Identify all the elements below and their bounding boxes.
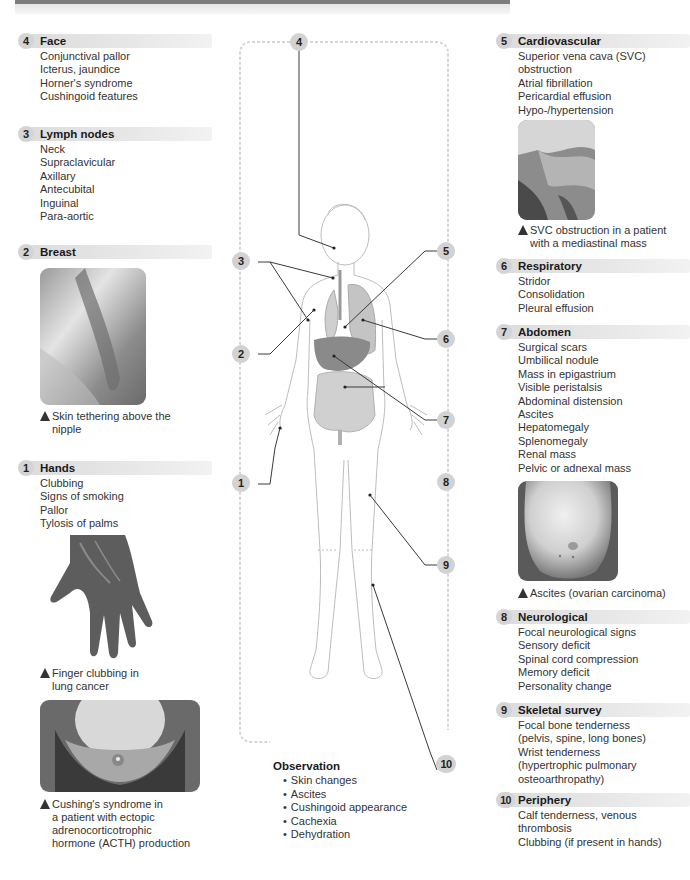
list-item: Pallor xyxy=(40,504,228,517)
section-number: 2 xyxy=(18,244,34,260)
section-hands: 1 Hands Clubbing Signs of smoking Pallor… xyxy=(18,460,228,850)
list-item: Dehydration xyxy=(283,828,473,842)
list-item: Focal neurological signs xyxy=(518,626,690,639)
section-periphery: 10 Periphery Calf tenderness, venous thr… xyxy=(496,792,690,849)
list-item: Superior vena cava (SVC) xyxy=(518,50,690,63)
list-item: Abdominal distension xyxy=(518,395,690,408)
section-title: Skeletal survey xyxy=(518,704,602,716)
list-item: Personality change xyxy=(518,680,690,693)
triangle-icon xyxy=(40,668,50,678)
ascites-photo xyxy=(518,481,618,581)
callout-lymph-nodes: 3 xyxy=(232,252,250,270)
list-item: Icterus, jaundice xyxy=(40,63,228,76)
section-number: 9 xyxy=(496,702,512,718)
list-item: Wrist tenderness xyxy=(518,746,690,759)
section-number: 5 xyxy=(496,33,512,49)
section-number: 8 xyxy=(496,609,512,625)
svc-photo xyxy=(518,120,595,220)
svc-caption: SVC obstruction in a patient with a medi… xyxy=(518,224,690,250)
callout-neurological: 8 xyxy=(437,473,455,491)
hands-caption: Finger clubbing in lung cancer xyxy=(40,667,228,693)
list-item: Sensory deficit xyxy=(518,639,690,652)
cushing-photo xyxy=(40,700,200,792)
section-title: Cardiovascular xyxy=(518,35,601,47)
cushing-caption: Cushing's syndrome in a patient with ect… xyxy=(40,798,228,850)
list-item: Neck xyxy=(40,143,228,156)
list-item: Pleural effusion xyxy=(518,302,690,315)
list-item: Focal bone tenderness xyxy=(518,719,690,732)
section-title: Hands xyxy=(40,462,75,474)
list-item: Horner's syndrome xyxy=(40,77,228,90)
list-item: Signs of smoking xyxy=(40,490,228,503)
triangle-icon xyxy=(40,799,50,809)
list-item: (pelvis, spine, long bones) xyxy=(518,732,690,745)
section-face: 4 Face Conjunctival pallor Icterus, jaun… xyxy=(18,33,228,104)
list-item: Ascites xyxy=(283,788,473,802)
list-item: Supraclavicular xyxy=(40,156,228,169)
list-item: Clubbing xyxy=(40,477,228,490)
section-number: 7 xyxy=(496,324,512,340)
list-item: Antecubital xyxy=(40,183,228,196)
callout-cardiovascular: 5 xyxy=(437,242,455,260)
list-item: Atrial fibrillation xyxy=(518,77,690,90)
list-item: Skin changes xyxy=(283,774,473,788)
list-item: Tylosis of palms xyxy=(40,517,228,530)
list-item: Ascites xyxy=(518,408,690,421)
callout-hands: 1 xyxy=(232,474,250,492)
section-title: Neurological xyxy=(518,611,588,623)
list-item: Memory deficit xyxy=(518,666,690,679)
observation-title: Observation xyxy=(273,760,473,772)
list-item: Para-aortic xyxy=(40,210,228,223)
section-cardiovascular: 5 Cardiovascular Superior vena cava (SVC… xyxy=(496,33,690,250)
list-item: obstruction xyxy=(518,63,690,76)
list-item: Surgical scars xyxy=(518,341,690,354)
section-number: 4 xyxy=(18,33,34,49)
section-skeletal-survey: 9 Skeletal survey Focal bone tenderness … xyxy=(496,702,690,786)
triangle-icon xyxy=(518,588,528,598)
list-item: Clubbing (if present in hands) xyxy=(518,836,690,849)
section-number: 6 xyxy=(496,258,512,274)
section-abdomen: 7 Abdomen Surgical scars Umbilical nodul… xyxy=(496,324,690,600)
body-diagram: 4 3 2 1 5 6 7 8 9 10 xyxy=(230,30,470,770)
list-item: Splenomegaly xyxy=(518,435,690,448)
section-title: Lymph nodes xyxy=(40,128,114,140)
list-item: Inguinal xyxy=(40,197,228,210)
list-item: Pelvic or adnexal mass xyxy=(518,462,690,475)
section-lymph-nodes: 3 Lymph nodes Neck Supraclavicular Axill… xyxy=(18,126,228,223)
list-item: Hypo-/hypertension xyxy=(518,104,690,117)
list-item: Mass in epigastrium xyxy=(518,368,690,381)
section-neurological: 8 Neurological Focal neurological signs … xyxy=(496,609,690,693)
section-number: 3 xyxy=(18,126,34,142)
list-item: Cushingoid appearance xyxy=(283,801,473,815)
section-breast: 2 Breast Skin tethering above the nipple xyxy=(18,244,228,436)
list-item: Umbilical nodule xyxy=(518,354,690,367)
list-item: Axillary xyxy=(40,170,228,183)
list-item: Cushingoid features xyxy=(40,90,228,103)
section-number: 10 xyxy=(496,792,515,808)
list-item: Spinal cord compression xyxy=(518,653,690,666)
list-item: (hypertrophic pulmonary xyxy=(518,759,690,772)
callout-respiratory: 6 xyxy=(437,330,455,348)
breast-caption: Skin tethering above the nipple xyxy=(40,410,228,436)
list-item: Hepatomegaly xyxy=(518,421,690,434)
callout-breast: 2 xyxy=(232,345,250,363)
list-item: Calf tenderness, venous xyxy=(518,809,690,822)
section-title: Abdomen xyxy=(518,326,571,338)
section-number: 1 xyxy=(18,460,34,476)
list-item: Visible peristalsis xyxy=(518,381,690,394)
list-item: Renal mass xyxy=(518,448,690,461)
top-rule-shadow xyxy=(15,4,510,14)
triangle-icon xyxy=(518,225,528,235)
callout-skeletal: 9 xyxy=(437,556,455,574)
callout-face: 4 xyxy=(290,33,308,51)
triangle-icon xyxy=(40,411,50,421)
list-item: osteoarthropathy) xyxy=(518,773,690,786)
list-item: Consolidation xyxy=(518,288,690,301)
section-title: Respiratory xyxy=(518,260,582,272)
section-title: Periphery xyxy=(518,794,571,806)
ascites-caption: Ascites (ovarian carcinoma) xyxy=(518,587,690,600)
list-item: Cachexia xyxy=(283,815,473,829)
list-item: thrombosis xyxy=(518,822,690,835)
callout-abdomen: 7 xyxy=(437,411,455,429)
observation-box: Observation Skin changes Ascites Cushing… xyxy=(273,760,473,842)
